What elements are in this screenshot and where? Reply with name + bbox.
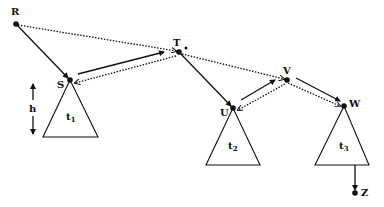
node-t: [176, 49, 182, 55]
subtree-t1: [43, 80, 98, 137]
label-t: T: [173, 37, 181, 48]
edge-u-v: [241, 80, 275, 100]
dotted-edge-t-s: [75, 56, 176, 83]
node-u: [230, 105, 236, 111]
edge-s-t: [78, 52, 164, 74]
label-w: W: [348, 98, 361, 109]
label-z: Z: [361, 187, 368, 198]
label-s: S: [57, 79, 64, 90]
node-s: [67, 77, 73, 83]
dotted-edge-v-w: [288, 83, 340, 106]
subtree-t2: [206, 108, 260, 165]
node-t-mark: [185, 47, 188, 50]
node-z: [352, 190, 358, 196]
node-r: [13, 21, 19, 27]
dotted-edge-r-t: [18, 25, 176, 51]
node-v: [284, 77, 290, 83]
label-v: V: [282, 65, 291, 76]
tree-diagram: h R S T U V W Z t1 t2 t3: [0, 0, 384, 207]
dotted-edge-t-v: [182, 54, 284, 79]
edge-t-u: [179, 52, 231, 106]
subtree-t3: [315, 106, 369, 165]
height-label: h: [29, 103, 37, 114]
label-r: R: [11, 6, 20, 17]
node-w: [341, 103, 347, 109]
label-u: U: [220, 107, 229, 118]
